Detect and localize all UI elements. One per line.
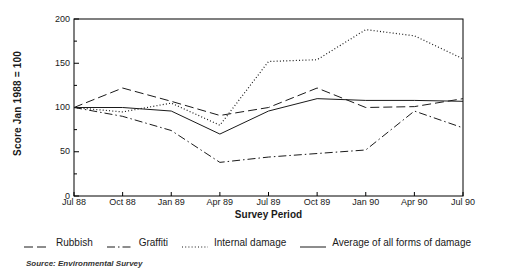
x-tick-label: Jul 89 <box>247 198 291 207</box>
x-tick-label: Oct 88 <box>101 198 145 207</box>
legend-item-label: Graffiti <box>139 238 168 248</box>
series-line-average-of-all-forms-of-damage <box>74 99 463 134</box>
legend-item-graffiti[interactable]: Graffiti <box>107 238 168 248</box>
legend-item-label: Rubbish <box>56 238 93 248</box>
legend-item-label: Internal damage <box>214 238 286 248</box>
x-axis-title-label: Survey Period <box>235 209 302 220</box>
legend-item-internal-damage[interactable]: Internal damage <box>182 238 286 248</box>
x-tick-label: Apr 89 <box>198 198 242 207</box>
x-axis-title: Survey Period <box>74 209 463 220</box>
legend-line-sample-icon <box>24 238 50 248</box>
x-tick-label: Jul 90 <box>441 198 485 207</box>
series-line-graffiti <box>74 108 463 163</box>
source-note: Source: Environmental Survey <box>26 259 142 268</box>
legend-line-sample-icon <box>300 238 326 248</box>
legend-line-sample-icon <box>182 238 208 248</box>
x-tick-label: Oct 89 <box>295 198 339 207</box>
chart-figure: Score Jan 1988 = 100 050100150200 Jul 88… <box>0 0 507 279</box>
legend-item-rubbish[interactable]: Rubbish <box>24 238 93 248</box>
x-tick-label: Apr 90 <box>392 198 436 207</box>
chart-legend: RubbishGraffitiInternal damageAverage of… <box>24 235 494 251</box>
legend-item-label: Average of all forms of damage <box>332 238 471 248</box>
x-tick-label: Jul 88 <box>52 198 96 207</box>
legend-item-average-of-all-forms-of-damage[interactable]: Average of all forms of damage <box>300 238 471 248</box>
x-tick-label: Jan 89 <box>149 198 193 207</box>
x-tick-label: Jan 90 <box>344 198 388 207</box>
legend-line-sample-icon <box>107 238 133 248</box>
